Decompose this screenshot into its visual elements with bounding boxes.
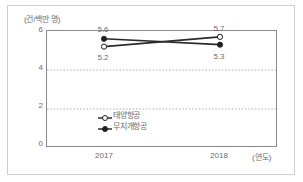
legend-item-mujigae: 무지개항공 bbox=[97, 120, 167, 130]
x-axis-tick-2017: 2017 bbox=[84, 151, 124, 160]
data-label-mujigae-2017: 5.6 bbox=[92, 25, 114, 34]
y-axis-tick-6: 6 bbox=[29, 25, 43, 34]
data-label-mujigae-2018: 5.3 bbox=[208, 52, 230, 61]
plot-area: 태양항공 무지개항공 bbox=[46, 30, 277, 147]
legend-item-taeyang: 태양항공 bbox=[97, 109, 167, 119]
data-point-mujigae-2017 bbox=[101, 36, 106, 41]
x-axis-unit-label: (연도) bbox=[252, 151, 271, 162]
open-circle-marker-icon bbox=[97, 109, 113, 119]
chart-legend: 태양항공 무지개항공 bbox=[97, 109, 167, 131]
y-axis-tick-4: 4 bbox=[29, 63, 43, 72]
data-point-taeyang-2017 bbox=[101, 44, 106, 49]
data-point-taeyang-2018 bbox=[217, 34, 222, 39]
legend-label-mujigae: 무지개항공 bbox=[113, 120, 147, 131]
data-point-mujigae-2018 bbox=[217, 42, 222, 47]
y-axis-tick-0: 0 bbox=[29, 139, 43, 148]
data-label-taeyang-2017: 5.2 bbox=[92, 53, 114, 62]
series-line-taeyang bbox=[104, 37, 220, 47]
legend-label-taeyang: 태양항공 bbox=[113, 109, 140, 120]
chart-figure: (건/백만 명) 6 4 2 0 bbox=[0, 0, 303, 182]
filled-circle-marker-icon bbox=[97, 120, 113, 130]
data-label-taeyang-2018: 5.7 bbox=[208, 24, 230, 33]
x-axis-tick-2018: 2018 bbox=[199, 151, 239, 160]
y-axis-tick-2: 2 bbox=[29, 101, 43, 110]
y-axis-unit-label: (건/백만 명) bbox=[24, 13, 60, 24]
